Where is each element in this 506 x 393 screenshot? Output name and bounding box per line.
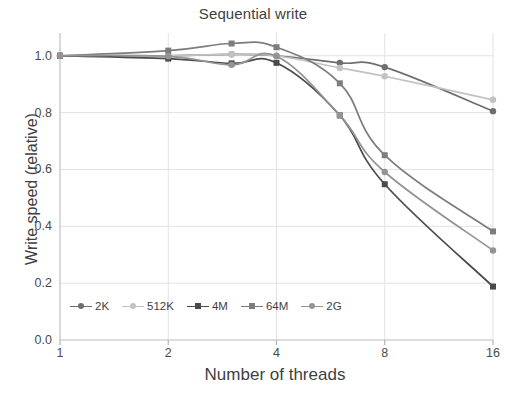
x-tick-label: 2: [165, 346, 172, 360]
x-tick-label: 4: [273, 346, 280, 360]
x-tick-label: 16: [486, 346, 500, 360]
legend-item-2G[interactable]: 2G: [301, 300, 341, 312]
legend-marker-icon: [187, 301, 209, 311]
legend-marker-icon: [122, 301, 144, 311]
data-point-marker: [165, 53, 171, 59]
data-point-marker: [274, 44, 280, 50]
data-point-marker: [490, 97, 496, 103]
y-tick-label: 0.4: [18, 219, 52, 233]
data-point-marker: [382, 73, 388, 79]
legend-item-2K[interactable]: 2K: [70, 300, 109, 312]
data-point-marker: [490, 284, 496, 290]
data-point-marker: [229, 41, 235, 47]
data-point-marker: [382, 169, 388, 175]
legend-marker-icon: [70, 301, 92, 311]
x-tick-label: 1: [57, 346, 64, 360]
data-point-marker: [382, 152, 388, 158]
data-point-marker: [337, 65, 343, 71]
data-point-marker: [382, 181, 388, 187]
data-point-marker: [57, 53, 63, 59]
x-axis-title: Number of threads: [60, 365, 490, 385]
legend-label: 2K: [94, 300, 109, 312]
data-point-marker: [490, 247, 496, 253]
chart-title: Sequential write: [0, 5, 506, 22]
data-point-marker: [228, 62, 234, 68]
y-tick-label: 0.0: [18, 333, 52, 347]
legend-item-512K[interactable]: 512K: [122, 300, 174, 312]
gridlines: [60, 33, 493, 340]
data-point-marker: [165, 48, 171, 54]
legend-item-64M[interactable]: 64M: [241, 300, 288, 312]
data-point-marker: [337, 112, 343, 118]
x-tick-label: 8: [381, 346, 388, 360]
plot-area: [0, 0, 506, 393]
data-point-marker: [490, 108, 496, 114]
legend-marker-icon: [301, 301, 323, 311]
y-tick-label: 0.8: [18, 106, 52, 120]
legend-marker-icon: [241, 301, 263, 311]
y-axis-tick-labels: 0.00.20.40.60.81.0: [18, 0, 52, 393]
data-point-marker: [273, 53, 279, 59]
data-point-marker: [228, 51, 234, 57]
y-tick-label: 0.6: [18, 162, 52, 176]
data-point-marker: [382, 64, 388, 70]
data-point-marker: [337, 80, 343, 86]
legend-item-4M[interactable]: 4M: [187, 300, 228, 312]
legend-label: 4M: [211, 300, 228, 312]
legend-label: 64M: [265, 300, 288, 312]
chart-legend: 2K512K4M64M2G: [70, 300, 342, 312]
data-point-marker: [490, 228, 496, 234]
data-point-marker: [274, 60, 280, 66]
legend-label: 2G: [325, 300, 341, 312]
y-tick-label: 1.0: [18, 49, 52, 63]
sequential-write-chart: Sequential write Write speed (relative) …: [0, 0, 506, 393]
y-tick-label: 0.2: [18, 276, 52, 290]
legend-label: 512K: [146, 300, 174, 312]
